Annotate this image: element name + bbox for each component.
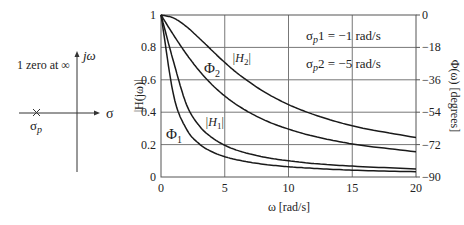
y-right-tick-label: 0 bbox=[422, 8, 428, 22]
x-tick-label: 15 bbox=[346, 181, 358, 195]
y-right-tick-label: −54 bbox=[422, 105, 441, 119]
y-right-tick-label: −36 bbox=[422, 73, 441, 87]
x-tick-label: 0 bbox=[158, 181, 164, 195]
sigma-label: σ bbox=[106, 106, 114, 121]
y-tick-label: 0.8 bbox=[141, 40, 156, 54]
y-right-tick-label: −18 bbox=[422, 40, 441, 54]
y-right-tick-label: −90 bbox=[422, 170, 441, 184]
h1-curve-label: |H1| bbox=[205, 115, 224, 131]
bode-plot: 0510152000.20.40.60.81−90−72−54−36−180 |… bbox=[132, 8, 462, 214]
y-tick-label: 0.2 bbox=[141, 138, 156, 152]
jw-label: jω bbox=[81, 48, 96, 63]
sigma-p1-annotation: σp1 = −1 rad/s bbox=[306, 28, 381, 45]
y-right-axis-label: Φ(ω) [degrees] bbox=[448, 60, 462, 132]
zero-at-infinity-label: 1 zero at ∞ bbox=[17, 58, 70, 72]
phi2-curve-label: Φ2 bbox=[204, 60, 220, 79]
figure: jω σ 1 zero at ∞ σp 0510152000.20.40.60.… bbox=[0, 0, 464, 225]
sigma-p2-annotation: σp2 = −5 rad/s bbox=[306, 56, 381, 73]
sigma-arrow-icon bbox=[94, 111, 100, 116]
x-tick-label: 20 bbox=[410, 181, 422, 195]
y-right-tick-label: −72 bbox=[422, 138, 441, 152]
y-tick-label: 0 bbox=[150, 170, 156, 184]
phi1-curve-label: Φ1 bbox=[166, 126, 182, 145]
y-tick-label: 1 bbox=[150, 8, 156, 22]
h2-curve-label: |H2| bbox=[232, 51, 251, 67]
x-tick-label: 10 bbox=[283, 181, 295, 195]
pole-label: σp bbox=[30, 118, 42, 135]
x-tick-label: 5 bbox=[222, 181, 228, 195]
y-axis-label: |H(jω)| bbox=[132, 80, 146, 113]
jw-arrow-icon bbox=[75, 51, 80, 57]
pole-zero-diagram: jω σ 1 zero at ∞ σp bbox=[17, 48, 114, 172]
x-axis-label: ω [rad/s] bbox=[268, 200, 310, 214]
